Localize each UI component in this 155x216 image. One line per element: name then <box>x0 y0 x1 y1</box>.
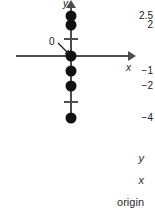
origin-callout-label: 0 <box>49 37 55 47</box>
plot-point-minus-1 <box>66 66 77 77</box>
tick-mark-y-1 <box>64 38 78 40</box>
coordinate-plane-figure: 2.5 2 −1 −2 −4 0 y x <box>0 0 155 140</box>
x-axis-label: x <box>126 63 131 73</box>
plot-point-minus-2 <box>66 81 77 92</box>
tick-mark-y-minus-3 <box>64 101 78 103</box>
point-label-minus-2: −2 <box>93 81 155 91</box>
answer-choice-y[interactable]: y <box>139 152 145 164</box>
plot-point-2 <box>66 20 77 31</box>
plot-point-minus-4 <box>66 113 77 124</box>
y-axis-label: y <box>63 0 68 9</box>
origin-callout-arrow-icon <box>57 42 71 55</box>
answer-choice-list: y x origin <box>0 140 155 216</box>
answer-choice-origin[interactable]: origin <box>117 196 144 208</box>
point-label-minus-1: −1 <box>93 66 155 76</box>
point-label-2: 2 <box>93 20 155 30</box>
x-axis-arrowhead-icon <box>128 51 136 61</box>
point-label-minus-4: −4 <box>93 113 155 123</box>
answer-choice-x[interactable]: x <box>139 174 145 186</box>
